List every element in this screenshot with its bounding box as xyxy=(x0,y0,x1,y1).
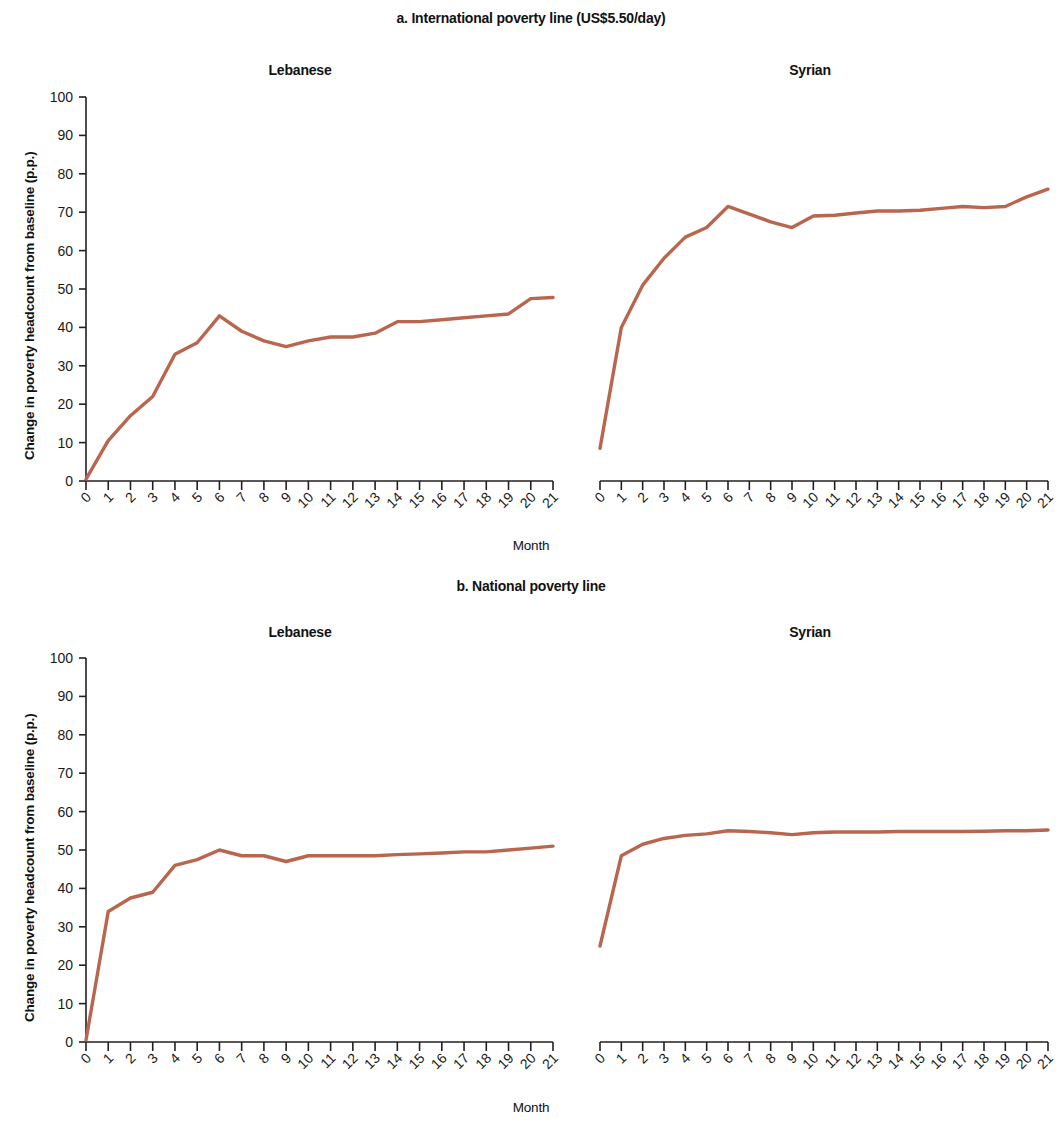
x-axis-tick-label: 17 xyxy=(450,1050,472,1072)
x-axis-tick-label: 13 xyxy=(863,489,885,511)
x-axis-tick-label: 5 xyxy=(698,1050,715,1067)
x-axis-tick-label: 17 xyxy=(948,1050,970,1072)
x-axis-tick-label: 17 xyxy=(948,489,970,511)
panel-b-x-axis-label: Month xyxy=(0,1100,1062,1115)
x-axis-tick-label: 6 xyxy=(719,489,736,506)
x-axis-tick-label: 0 xyxy=(77,489,94,506)
chart-b-lebanese: 0102030405060708090100012345678910111213… xyxy=(50,650,562,1072)
x-axis-tick-label: 12 xyxy=(339,1050,361,1072)
x-axis-tick-label: 10 xyxy=(294,1050,316,1072)
x-axis-tick-label: 3 xyxy=(655,1050,672,1067)
y-axis-tick-label: 0 xyxy=(65,473,73,489)
y-axis-tick-label: 80 xyxy=(57,727,73,743)
x-axis-tick-label: 4 xyxy=(677,1050,694,1067)
x-axis-tick-label: 3 xyxy=(144,1050,161,1067)
x-axis-tick-label: 9 xyxy=(277,1050,294,1067)
data-line-b-syrian xyxy=(600,830,1048,946)
y-axis-tick-label: 40 xyxy=(57,880,73,896)
x-axis-tick-label: 6 xyxy=(211,489,228,506)
x-axis-tick-label: 18 xyxy=(472,489,494,511)
x-axis-tick-label: 5 xyxy=(188,1050,205,1067)
x-axis-tick-label: 15 xyxy=(906,489,928,511)
x-axis-tick-label: 13 xyxy=(361,1050,383,1072)
x-axis-tick-label: 10 xyxy=(799,1050,821,1072)
x-axis-tick-label: 20 xyxy=(1012,1050,1034,1072)
x-axis-tick-label: 16 xyxy=(927,489,949,511)
x-axis-tick-label: 18 xyxy=(472,1050,494,1072)
y-axis-tick-label: 60 xyxy=(57,804,73,820)
x-axis-tick-label: 18 xyxy=(970,1050,992,1072)
chart-a-lebanese: 0102030405060708090100012345678910111213… xyxy=(50,89,562,511)
y-axis-tick-label: 30 xyxy=(57,919,73,935)
x-axis-tick-label: 11 xyxy=(821,489,843,511)
x-axis-tick-label: 20 xyxy=(517,1050,539,1072)
x-axis-tick-label: 19 xyxy=(494,1050,516,1072)
data-line-a-lebanese xyxy=(86,297,553,479)
y-axis-tick-label: 100 xyxy=(50,650,74,666)
x-axis-tick-label: 21 xyxy=(539,1050,561,1072)
panel-a-plot-area: 0102030405060708090100012345678910111213… xyxy=(0,0,1062,570)
x-axis-tick-label: 2 xyxy=(634,1050,651,1067)
x-axis-tick-label: 9 xyxy=(783,489,800,506)
data-line-a-syrian xyxy=(600,189,1048,448)
panel-b-y-axis-label: Change in poverty headcount from baselin… xyxy=(22,714,37,1022)
x-axis-tick-label: 2 xyxy=(122,489,139,506)
y-axis-tick-label: 30 xyxy=(57,358,73,374)
x-axis-tick-label: 16 xyxy=(428,1050,450,1072)
x-axis-tick-label: 7 xyxy=(741,489,758,506)
y-axis-tick-label: 20 xyxy=(57,957,73,973)
figure-root: a. International poverty line (US$5.50/d… xyxy=(0,0,1062,1128)
x-axis-tick-label: 10 xyxy=(799,489,821,511)
x-axis-tick-label: 4 xyxy=(166,1050,183,1067)
x-axis-tick-label: 15 xyxy=(405,1050,427,1072)
x-axis-tick-label: 21 xyxy=(1034,489,1056,511)
x-axis-tick-label: 0 xyxy=(591,489,608,506)
x-axis-tick-label: 1 xyxy=(613,489,630,506)
panel-a-syrian-title: Syrian xyxy=(690,62,930,78)
y-axis-tick-label: 90 xyxy=(57,127,73,143)
x-axis-tick-label: 11 xyxy=(317,1050,339,1072)
x-axis-tick-label: 15 xyxy=(906,1050,928,1072)
x-axis-tick-label: 6 xyxy=(719,1050,736,1067)
y-axis-tick-label: 80 xyxy=(57,166,73,182)
x-axis-tick-label: 18 xyxy=(970,489,992,511)
x-axis-tick-label: 0 xyxy=(77,1050,94,1067)
x-axis-tick-label: 5 xyxy=(188,489,205,506)
x-axis-tick-label: 8 xyxy=(255,1050,272,1067)
y-axis-tick-label: 50 xyxy=(57,842,73,858)
x-axis-tick-label: 13 xyxy=(863,1050,885,1072)
x-axis-tick-label: 5 xyxy=(698,489,715,506)
x-axis-tick-label: 20 xyxy=(517,489,539,511)
x-axis-tick-label: 19 xyxy=(494,489,516,511)
x-axis-tick-label: 11 xyxy=(317,489,339,511)
chart-b-syrian: 0123456789101112131415161718192021 xyxy=(591,830,1056,1072)
x-axis-tick-label: 16 xyxy=(927,1050,949,1072)
y-axis-tick-label: 90 xyxy=(57,688,73,704)
y-axis-tick-label: 10 xyxy=(57,435,73,451)
y-axis-tick-label: 50 xyxy=(57,281,73,297)
x-axis-tick-label: 21 xyxy=(539,489,561,511)
y-axis-tick-label: 70 xyxy=(57,765,73,781)
x-axis-tick-label: 19 xyxy=(991,1050,1013,1072)
x-axis-tick-label: 15 xyxy=(405,489,427,511)
x-axis-tick-label: 16 xyxy=(428,489,450,511)
x-axis-tick-label: 21 xyxy=(1034,1050,1056,1072)
x-axis-tick-label: 7 xyxy=(233,489,250,506)
x-axis-tick-label: 12 xyxy=(339,489,361,511)
x-axis-tick-label: 14 xyxy=(383,1050,405,1072)
panel-b-plot-area: 0102030405060708090100012345678910111213… xyxy=(0,0,1062,1128)
x-axis-tick-label: 1 xyxy=(100,1050,117,1067)
x-axis-tick-label: 7 xyxy=(233,1050,250,1067)
x-axis-tick-label: 8 xyxy=(255,489,272,506)
x-axis-tick-label: 1 xyxy=(100,489,117,506)
x-axis-tick-label: 0 xyxy=(591,1050,608,1067)
panel-a-title: a. International poverty line (US$5.50/d… xyxy=(0,10,1062,26)
x-axis-tick-label: 12 xyxy=(842,489,864,511)
panel-b-title: b. National poverty line xyxy=(0,578,1062,594)
x-axis-tick-label: 6 xyxy=(211,1050,228,1067)
x-axis-tick-label: 13 xyxy=(361,489,383,511)
panel-a-y-axis-label: Change in poverty headcount from baselin… xyxy=(22,152,37,460)
x-axis-tick-label: 3 xyxy=(144,489,161,506)
x-axis-tick-label: 10 xyxy=(294,489,316,511)
panel-b-lebanese-title: Lebanese xyxy=(180,624,420,640)
